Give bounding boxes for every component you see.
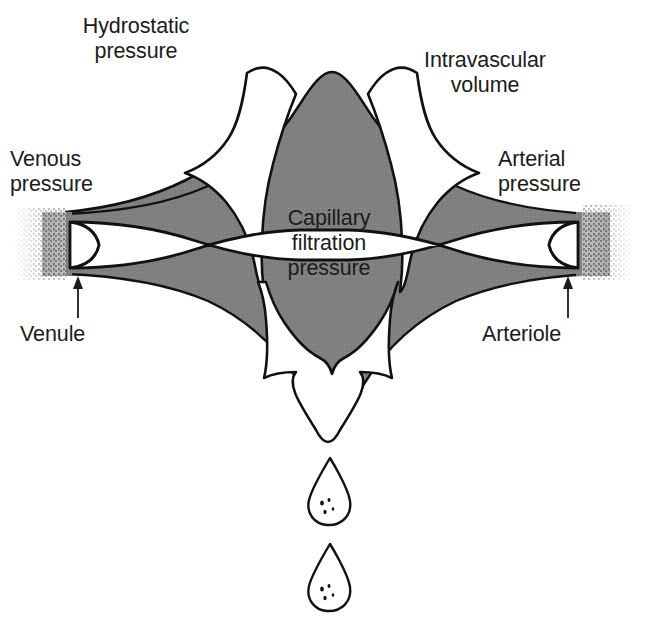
label-arterial-pressure: Arterial pressure bbox=[498, 147, 638, 197]
arteriole-leader-arrow bbox=[563, 276, 573, 318]
arteriole-cut-end-stipple bbox=[582, 205, 634, 280]
fluid-droplets bbox=[308, 458, 350, 611]
droplet-outline-lower bbox=[308, 544, 350, 611]
label-arteriole: Arteriole bbox=[482, 322, 642, 347]
diagram-page: Hydrostatic pressure Intravascular volum… bbox=[0, 0, 648, 619]
label-venous-pressure: Venous pressure bbox=[10, 147, 150, 197]
venule-cut-end-stipple bbox=[14, 208, 66, 280]
fluid-droplet-lower bbox=[308, 544, 350, 611]
label-intravascular-volume: Intravascular volume bbox=[390, 48, 580, 98]
label-capillary-filtration-pressure: Capillary filtration pressure bbox=[238, 206, 420, 281]
fluid-droplet-upper bbox=[308, 458, 350, 525]
label-venule: Venule bbox=[20, 322, 170, 347]
venule-leader-arrow bbox=[73, 276, 83, 318]
label-hydrostatic-pressure: Hydrostatic pressure bbox=[36, 14, 236, 64]
droplet-outline-upper bbox=[308, 458, 350, 525]
